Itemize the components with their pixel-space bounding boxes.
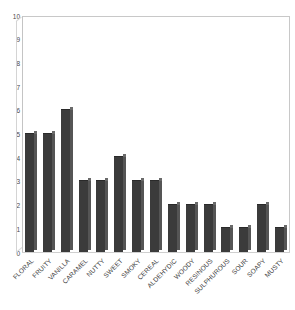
- bar-top-face: [88, 178, 91, 181]
- x-axis-tick: ALDEHYDIC: [167, 253, 183, 310]
- bar-top-face: [195, 202, 198, 205]
- bar-side-face: [52, 134, 55, 251]
- bar-top-face: [34, 131, 37, 134]
- bar-column: [131, 16, 147, 253]
- bar-side-face: [159, 181, 162, 250]
- bar-side-face: [284, 228, 287, 250]
- bar-column: [238, 16, 254, 253]
- x-axis-tick: SOAPY: [256, 253, 272, 310]
- bar-top-face: [266, 202, 269, 205]
- bar-column: [274, 16, 290, 253]
- x-axis-tick: MUSTY: [274, 253, 290, 310]
- bar-column: [167, 16, 183, 253]
- bar-top-face: [248, 225, 251, 228]
- bar: [61, 109, 70, 252]
- x-axis-tick: NUTTY: [95, 253, 111, 310]
- x-axis-labels: FLORALFRUITYVANILLACARAMELNUTTYSWEETSMOK…: [22, 253, 290, 310]
- bar-column: [256, 16, 272, 253]
- x-axis-tick: CARAMEL: [78, 253, 94, 310]
- bar-column: [185, 16, 201, 253]
- bar-top-face: [70, 107, 73, 110]
- bar-top-face: [230, 225, 233, 228]
- bar-side-face: [266, 205, 269, 250]
- bar-chart: 012345678910 FLORALFRUITYVANILLACARAMELN…: [0, 0, 295, 310]
- bar-top-face: [159, 178, 162, 181]
- bar: [43, 133, 52, 253]
- bar-top-face: [105, 178, 108, 181]
- x-axis-tick: SMOKY: [131, 253, 147, 310]
- x-axis-tick: FRUITY: [42, 253, 58, 310]
- x-axis-tick: SWEET: [113, 253, 129, 310]
- x-axis-tick: FLORAL: [24, 253, 40, 310]
- bar-column: [113, 16, 129, 253]
- bar-column: [24, 16, 40, 253]
- bar: [25, 133, 34, 253]
- bar-column: [95, 16, 111, 253]
- bars-layer: [22, 16, 290, 253]
- bar-column: [149, 16, 165, 253]
- bar-column: [60, 16, 76, 253]
- bar-column: [220, 16, 236, 253]
- x-axis-tick: SULPHUROUS: [220, 253, 236, 310]
- bar-top-face: [177, 202, 180, 205]
- bar-top-face: [123, 154, 126, 157]
- bar-top-face: [284, 225, 287, 228]
- bar-column: [78, 16, 94, 253]
- bar-top-face: [141, 178, 144, 181]
- bar-side-face: [34, 134, 37, 251]
- bar-column: [42, 16, 58, 253]
- bar-side-face: [123, 157, 126, 250]
- bar-top-face: [213, 202, 216, 205]
- bar: [114, 156, 123, 252]
- x-axis-tick: SOUR: [238, 253, 254, 310]
- bar-column: [203, 16, 219, 253]
- bar-side-face: [141, 181, 144, 250]
- bar-top-face: [52, 131, 55, 134]
- bar-side-face: [70, 110, 73, 250]
